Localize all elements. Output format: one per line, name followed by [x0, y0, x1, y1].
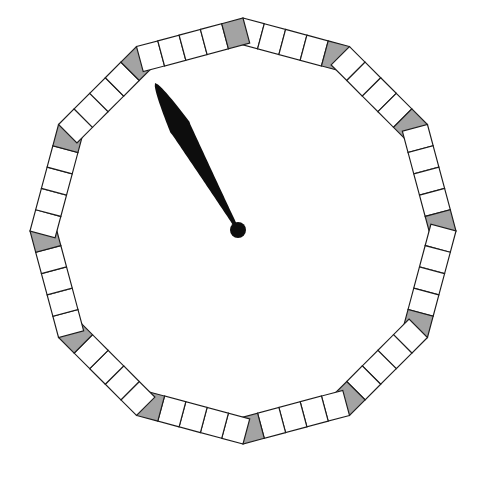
- dial-figure: Polygonal Dial Gauge A twelve-sided ring…: [0, 0, 483, 497]
- dial-canvas: Polygonal Dial Gauge A twelve-sided ring…: [0, 0, 483, 497]
- needle-hub: [230, 222, 246, 238]
